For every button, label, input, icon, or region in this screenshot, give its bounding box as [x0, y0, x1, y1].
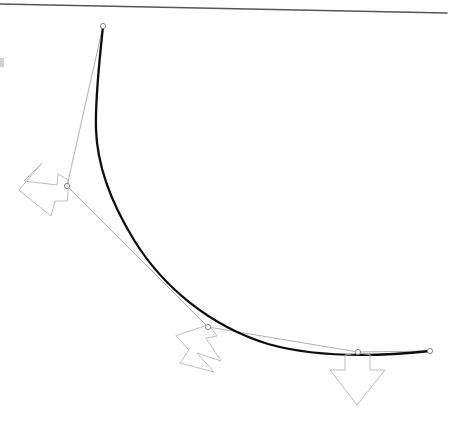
arrow-down-icon[interactable]	[330, 353, 385, 405]
node-marker-2[interactable]	[64, 183, 69, 188]
curve-diagram-svg	[0, 0, 451, 424]
figure-canvas	[0, 0, 451, 424]
node-marker-5[interactable]	[427, 348, 432, 353]
arrow-left-icon[interactable]	[19, 163, 68, 216]
annotation-arrows-group	[19, 163, 385, 405]
top-rule-line	[0, 4, 447, 13]
node-marker-3[interactable]	[205, 324, 210, 329]
control-polyline	[67, 26, 430, 352]
node-marker-4[interactable]	[355, 349, 360, 354]
left-edge-fragment	[0, 58, 4, 67]
node-markers-group	[64, 23, 432, 354]
arrow-down-left-icon[interactable]	[176, 325, 221, 372]
node-marker-1[interactable]	[100, 23, 105, 28]
smooth-curve-path	[96, 26, 430, 355]
